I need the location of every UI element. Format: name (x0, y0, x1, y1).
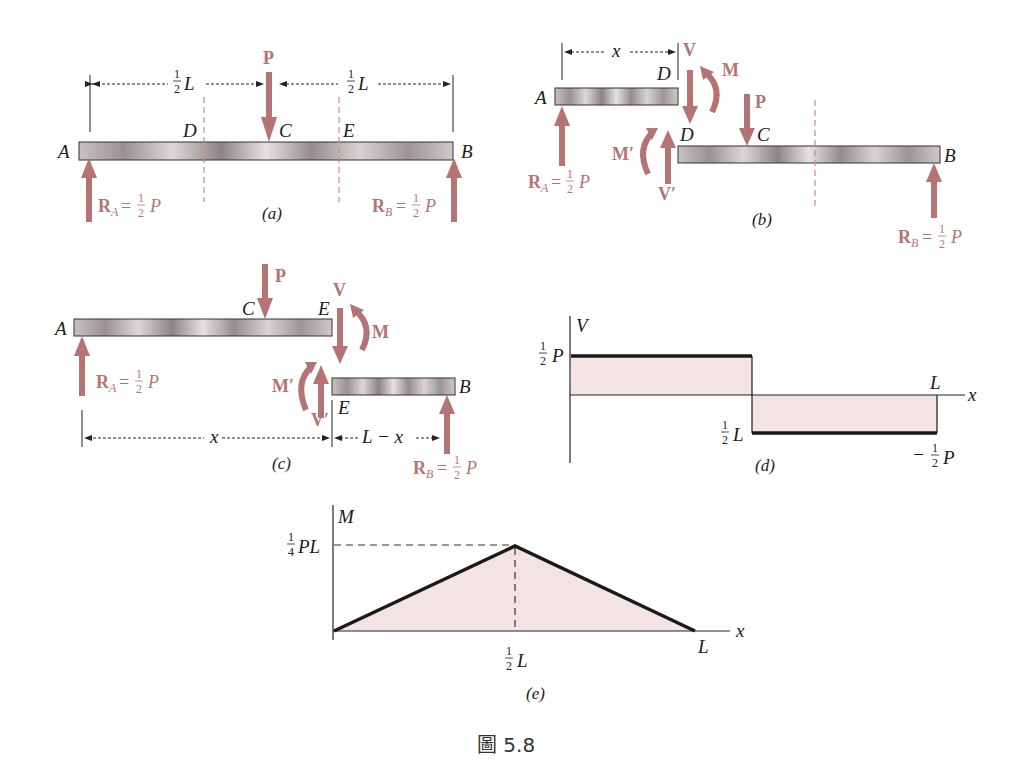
panel-a: 1 2 L 1 2 L A B D C E P R A = (56, 48, 473, 223)
reaction-b-b: R B = 1 2 P (898, 222, 962, 251)
svg-text:B: B (944, 145, 956, 166)
svg-text:1: 1 (932, 441, 938, 455)
svg-text:2: 2 (567, 182, 573, 196)
svg-text:A: A (533, 87, 547, 108)
caption-e: (e) (526, 684, 545, 703)
svg-text:V′: V′ (658, 184, 676, 204)
svg-text:R: R (98, 196, 112, 216)
svg-text:1: 1 (413, 191, 419, 205)
svg-text:2: 2 (722, 433, 728, 447)
svg-text:=: = (922, 227, 932, 247)
beam-ad (555, 88, 678, 105)
svg-text:P: P (578, 172, 590, 192)
svg-text:R: R (528, 172, 542, 192)
svg-text:B: B (459, 376, 471, 397)
svg-text:B: B (911, 236, 919, 250)
svg-text:M′: M′ (612, 144, 634, 164)
svg-text:2: 2 (932, 456, 938, 470)
svg-text:x: x (967, 384, 977, 405)
beam-db (678, 146, 940, 163)
arrow-down-icon (261, 117, 277, 142)
reaction-b: R B = 1 2 P (372, 191, 436, 220)
dim-x: x (611, 40, 621, 61)
svg-text:2: 2 (348, 82, 354, 96)
beam-eb (332, 378, 455, 395)
svg-text:1: 1 (722, 418, 728, 432)
svg-text:−: − (912, 444, 925, 465)
reaction-a: R A = 1 2 P (98, 191, 161, 220)
svg-text:1: 1 (939, 222, 945, 236)
panel-d-shear-diagram: V x L 1 2 P 1 2 L − 1 2 P (d) (539, 315, 977, 475)
svg-text:=: = (119, 372, 129, 392)
svg-text:2: 2 (540, 354, 546, 368)
dim-l-minus-x: L − x (361, 426, 404, 447)
dim-half-l-left: 1 2 L (173, 67, 195, 96)
svg-text:P: P (755, 92, 766, 112)
svg-text:B: B (385, 205, 393, 219)
svg-text:PL: PL (297, 536, 320, 557)
beam-ae (74, 319, 332, 336)
svg-text:P: P (149, 196, 161, 216)
arrow-down-icon (682, 106, 698, 124)
point-d: D (182, 120, 197, 141)
svg-text:1: 1 (136, 367, 142, 381)
svg-text:A: A (540, 181, 549, 195)
svg-text:=: = (551, 172, 561, 192)
reaction-a-b: R A = 1 2 P (528, 167, 590, 196)
shear-v: V (683, 40, 696, 60)
svg-text:1: 1 (506, 644, 512, 658)
panel-c: A C E P V M R A = 1 2 P M′ V′ (53, 264, 477, 482)
svg-text:A: A (108, 381, 117, 395)
svg-text:1: 1 (567, 167, 573, 181)
svg-text:R: R (413, 458, 427, 478)
svg-text:B: B (426, 467, 434, 481)
svg-text:2: 2 (174, 82, 180, 96)
reaction-b-c: R B = 1 2 P (413, 453, 477, 482)
point-a: A (56, 141, 70, 162)
svg-text:P: P (147, 372, 159, 392)
svg-text:1: 1 (174, 67, 180, 81)
caption-d: (d) (755, 456, 775, 475)
point-e: E (342, 120, 355, 141)
svg-text:P: P (275, 266, 286, 286)
svg-text:1: 1 (348, 67, 354, 81)
svg-text:1: 1 (454, 453, 460, 467)
svg-text:R: R (96, 372, 110, 392)
svg-text:M: M (337, 506, 355, 527)
svg-text:x: x (735, 620, 745, 641)
svg-text:L: L (929, 372, 941, 393)
svg-text:E: E (317, 298, 330, 319)
arrow-up-icon (446, 158, 462, 178)
svg-text:L: L (732, 424, 744, 445)
svg-text:L: L (516, 650, 528, 671)
svg-text:L: L (357, 73, 369, 94)
figure-canvas: 1 2 L 1 2 L A B D C E P R A = (0, 0, 1034, 782)
svg-text:V: V (333, 280, 346, 300)
svg-text:2: 2 (138, 206, 144, 220)
svg-text:1: 1 (138, 191, 144, 205)
svg-text:R: R (898, 227, 912, 247)
moment-m: M (722, 60, 739, 80)
svg-text:D: D (656, 63, 671, 84)
panel-e-moment-diagram: M x 1 4 PL 1 2 L L (e) (287, 505, 745, 703)
caption-c: (c) (272, 454, 291, 473)
dim-half-l-right: 1 2 L (347, 67, 369, 96)
svg-text:=: = (121, 196, 131, 216)
svg-text:C: C (757, 124, 770, 145)
moment-arrow-icon (705, 72, 717, 112)
svg-text:M: M (372, 322, 389, 342)
figure-title: 圖 5.8 (477, 733, 535, 757)
svg-text:L: L (183, 73, 195, 94)
point-c: C (279, 120, 292, 141)
svg-text:R: R (372, 196, 386, 216)
svg-text:A: A (110, 205, 119, 219)
svg-text:x: x (209, 426, 219, 447)
svg-text:2: 2 (939, 237, 945, 251)
svg-text:4: 4 (288, 545, 294, 559)
svg-text:E: E (337, 397, 350, 418)
svg-text:2: 2 (506, 659, 512, 673)
caption-b: (b) (752, 210, 772, 229)
svg-text:V: V (576, 315, 590, 336)
svg-text:=: = (437, 458, 447, 478)
svg-text:D: D (679, 124, 694, 145)
